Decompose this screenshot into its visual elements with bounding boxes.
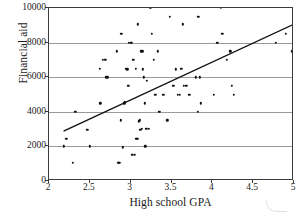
x-tick-label: 3 bbox=[127, 182, 132, 193]
data-point bbox=[221, 33, 223, 35]
regression-trendline bbox=[49, 8, 292, 179]
data-point bbox=[118, 162, 120, 164]
scatter-plot-figure: 22.533.544.55 0200040006000800010000 Hig… bbox=[0, 0, 306, 219]
data-point bbox=[147, 128, 149, 130]
data-point bbox=[65, 137, 67, 139]
data-point bbox=[291, 50, 293, 52]
gridline-8000 bbox=[49, 43, 292, 44]
data-point bbox=[178, 93, 180, 95]
data-point bbox=[149, 7, 151, 9]
data-point bbox=[200, 102, 202, 104]
data-point bbox=[143, 102, 145, 104]
y-axis-label: Financial aid bbox=[17, 0, 29, 123]
x-tick-label: 5 bbox=[291, 182, 296, 193]
data-point bbox=[229, 50, 231, 52]
data-point bbox=[180, 67, 182, 69]
gridline-4000 bbox=[49, 112, 292, 113]
scan-artifact bbox=[266, 200, 287, 212]
y-tick-label: 0 bbox=[41, 175, 46, 186]
data-point bbox=[126, 68, 128, 70]
plot-area bbox=[48, 7, 293, 180]
data-point bbox=[154, 93, 156, 95]
data-point bbox=[137, 23, 139, 25]
data-point bbox=[213, 93, 215, 95]
data-point bbox=[104, 59, 106, 61]
x-axis-label: High school GPA bbox=[48, 196, 293, 208]
data-point bbox=[134, 154, 136, 156]
data-point bbox=[71, 162, 73, 164]
data-point bbox=[226, 59, 228, 61]
data-point bbox=[162, 93, 164, 95]
data-point bbox=[285, 33, 287, 35]
data-point bbox=[197, 15, 199, 17]
data-point bbox=[120, 119, 122, 121]
data-point bbox=[172, 85, 174, 87]
x-tick-label: 2.5 bbox=[83, 182, 95, 193]
data-point bbox=[151, 33, 153, 35]
data-point bbox=[99, 102, 101, 104]
data-point bbox=[166, 119, 168, 121]
data-point bbox=[156, 50, 158, 52]
data-point bbox=[185, 85, 187, 87]
x-tick-label: 4 bbox=[209, 182, 214, 193]
data-point bbox=[146, 79, 148, 81]
data-point bbox=[136, 137, 138, 139]
y-tick-label: 4000 bbox=[27, 105, 46, 116]
data-point bbox=[152, 59, 154, 61]
y-tick-label: 2000 bbox=[27, 140, 46, 151]
data-point bbox=[86, 129, 88, 131]
data-point bbox=[98, 67, 100, 69]
y-tick-label: 8000 bbox=[27, 36, 46, 47]
data-point bbox=[120, 33, 122, 35]
x-tick-label: 4.5 bbox=[246, 182, 258, 193]
data-point bbox=[232, 93, 234, 95]
data-point bbox=[174, 68, 176, 70]
data-point bbox=[182, 23, 184, 25]
y-tick-label: 6000 bbox=[27, 71, 46, 82]
gridline-2000 bbox=[49, 146, 292, 147]
data-point bbox=[188, 93, 190, 95]
data-point bbox=[142, 50, 144, 52]
data-point bbox=[134, 67, 136, 69]
data-point bbox=[142, 68, 144, 70]
data-point bbox=[132, 59, 134, 61]
data-point bbox=[231, 85, 233, 87]
gridline-6000 bbox=[49, 77, 292, 78]
data-point bbox=[219, 7, 221, 9]
x-tick-label: 3.5 bbox=[165, 182, 177, 193]
data-point bbox=[127, 85, 129, 87]
x-tick-label: 2 bbox=[46, 182, 51, 193]
data-point bbox=[169, 15, 171, 17]
data-point bbox=[116, 50, 118, 52]
